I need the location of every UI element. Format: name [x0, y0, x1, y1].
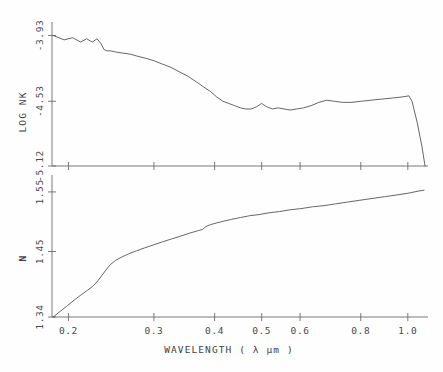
lower-y-tick-label: 1.34 [34, 304, 45, 329]
upper-y-tick-label: -3.93 [34, 20, 45, 52]
x-tick-label: 0.8 [351, 325, 370, 336]
upper-y-tick-label: -5.12 [34, 150, 45, 182]
x-tick-label: 0.4 [205, 325, 224, 336]
x-tick-label: 1.0 [398, 325, 417, 336]
x-tick-label: 0.5 [252, 325, 271, 336]
x-tick-label: 0.2 [59, 325, 78, 336]
upper-data-curve [53, 35, 425, 166]
lower-data-curve [53, 190, 424, 317]
lower-y-tick-label: 1.55 [34, 179, 45, 204]
dispersion-figure: -3.93-4.53-5.12LOG NK1.551.451.34N0.20.3… [0, 0, 443, 372]
lower-y-axis-title: N [17, 255, 28, 262]
x-axis-title: WAVELENGTH ( λ μm ) [164, 344, 294, 355]
x-tick-label: 0.6 [291, 325, 310, 336]
x-tick-label: 0.3 [144, 325, 163, 336]
upper-y-axis-title: LOG NK [17, 92, 28, 133]
upper-y-tick-label: -4.53 [34, 85, 45, 117]
figure-canvas: -3.93-4.53-5.12LOG NK1.551.451.34N0.20.3… [0, 0, 443, 372]
lower-y-tick-label: 1.45 [34, 239, 45, 264]
